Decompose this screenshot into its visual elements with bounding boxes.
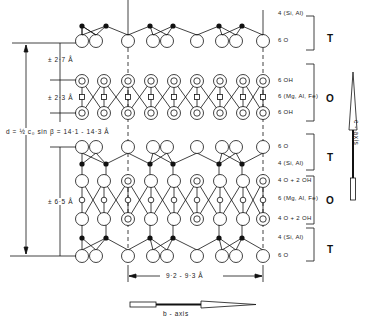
- label-brucite-oh-top: 6 OH: [278, 77, 293, 83]
- talc-thickness-label: ± 6·5 Å: [48, 198, 73, 205]
- label-talc-cations: 6 (Mg, Al, Fe): [278, 195, 318, 201]
- talc-upper-tetrahedral-sheet: [76, 141, 270, 176]
- b-repeat-label: 9·2 - 9·3 Å: [166, 272, 203, 279]
- bracket-label-o2: O: [326, 195, 334, 206]
- label-talc-o-oh-bottom: 4 O + 2 OH: [278, 215, 312, 221]
- label-brucite-cations: 6 (Mg, Al, Fe): [278, 93, 318, 99]
- b-axis-arrow: [130, 301, 256, 308]
- bracket-label-t1: T: [327, 33, 333, 44]
- talc-lower-tetrahedral-sheet: [76, 225, 270, 263]
- bracket-label-t2: T: [327, 152, 333, 163]
- c-axis-label: c - axis: [353, 120, 360, 145]
- label-top-6o: 6 O: [278, 37, 289, 43]
- brucite-thickness-label: ± 2·3 Å: [48, 94, 73, 101]
- label-bottom-si-al: 4 (Si, Al): [278, 234, 304, 240]
- label-brucite-oh-bottom: 6 OH: [278, 109, 293, 115]
- label-talc-o-oh-top: 4 O + 2 OH: [278, 177, 312, 183]
- interlayer-spacing-label: ± 2·7 Å: [48, 56, 73, 63]
- label-talc-si-al-top: 4 (Si, Al): [278, 160, 304, 166]
- sheet-brackets: [306, 16, 314, 261]
- talc-octahedral-sheet: [76, 175, 270, 226]
- dimension-lines: [10, 43, 76, 256]
- top-tetrahedral-sheet: [76, 23, 270, 47]
- d-spacing-label: d = ½ c₀ sin β = 14·1 - 14·3 Å: [6, 128, 109, 135]
- label-talc-6o-top: 6 O: [278, 143, 289, 149]
- label-top-si-al: 4 (Si, Al): [278, 10, 304, 16]
- bracket-label-o1: O: [326, 93, 334, 104]
- bracket-label-t3: T: [327, 244, 333, 255]
- label-bottom-6o: 6 O: [278, 252, 289, 258]
- brucite-octahedral-sheet: [76, 75, 270, 120]
- b-axis-label: b - axis: [163, 310, 189, 317]
